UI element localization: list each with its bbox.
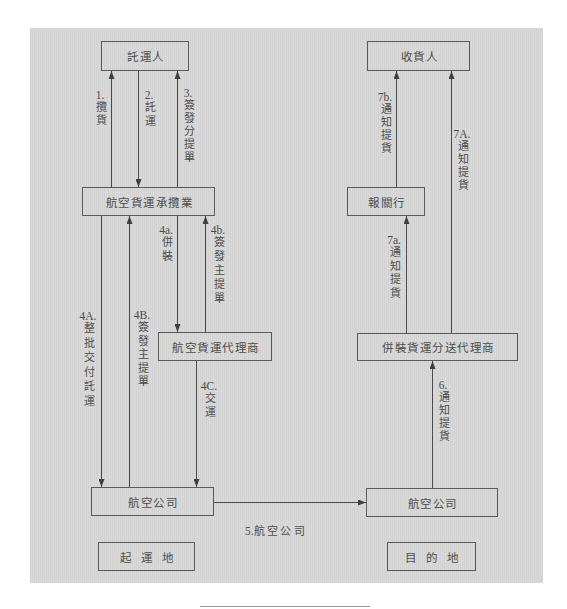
step-number: 7b. bbox=[378, 91, 392, 103]
node-consolidation-agent: 併裝貨運分送代理商 bbox=[357, 333, 518, 361]
step-text: 航空公司 bbox=[254, 525, 307, 538]
node-freight-forwarder: 航空貨運承攬業 bbox=[82, 187, 215, 216]
step-number: 3. bbox=[184, 87, 193, 99]
step-text: 簽發分提單 bbox=[182, 99, 194, 164]
edge-label-4B: 4B. 簽發主提單 bbox=[134, 309, 150, 389]
step-number: 5. bbox=[245, 525, 254, 537]
node-airline-origin: 航空公司 bbox=[91, 487, 214, 516]
edge-label-1: 1. 攬貨 bbox=[94, 89, 106, 127]
node-consignee: 收貨人 bbox=[367, 41, 470, 71]
step-number: 4B. bbox=[134, 309, 150, 321]
step-text: 通知提貨 bbox=[388, 246, 400, 300]
step-text: 通知提貨 bbox=[456, 140, 468, 192]
region-destination: 目的地 bbox=[387, 542, 476, 571]
edge-label-4A: 4A. 整批交付託運 bbox=[80, 310, 97, 409]
step-text: 簽發主提單 bbox=[136, 321, 148, 389]
step-number: 4C. bbox=[201, 380, 217, 392]
step-text: 攬貨 bbox=[94, 101, 106, 127]
step-number: 7a. bbox=[387, 234, 401, 246]
step-text: 託運 bbox=[143, 101, 155, 129]
node-shipper: 託運人 bbox=[101, 41, 189, 71]
step-number: 2. bbox=[145, 89, 154, 101]
edge-label-4a: 4a. 併裝 bbox=[159, 224, 173, 264]
node-air-cargo-agent: 航空貨運代理商 bbox=[158, 332, 272, 361]
step-number: 4a. bbox=[159, 224, 173, 236]
step-text: 通知提貨 bbox=[437, 391, 449, 443]
node-airline-destination: 航空公司 bbox=[366, 488, 498, 517]
step-number: 4A. bbox=[80, 310, 97, 322]
edge-label-2: 2. 託運 bbox=[143, 89, 155, 129]
step-number: 1. bbox=[96, 89, 105, 101]
diagram-canvas: 託運人 收貨人 航空貨運承攬業 報關行 航空貨運代理商 併裝貨運分送代理商 航空… bbox=[0, 0, 567, 609]
node-customs-broker: 報關行 bbox=[347, 187, 425, 216]
region-origin: 起運地 bbox=[98, 542, 195, 571]
step-text: 簽發主提單 bbox=[212, 236, 224, 306]
step-number: 7A. bbox=[454, 128, 471, 140]
edge-label-6: 6. 通知提貨 bbox=[437, 379, 449, 443]
step-text: 交運 bbox=[203, 392, 215, 419]
step-number: 4b. bbox=[211, 224, 225, 236]
step-text: 整批交付託運 bbox=[82, 322, 94, 409]
edge-label-7A: 7A. 通知提貨 bbox=[454, 128, 471, 192]
edge-label-5: 5.航空公司 bbox=[245, 525, 307, 538]
step-text: 通知提貨 bbox=[379, 103, 391, 155]
step-number: 6. bbox=[439, 379, 448, 391]
step-text: 併裝 bbox=[160, 236, 172, 264]
edge-label-4C: 4C. 交運 bbox=[201, 380, 217, 419]
edge-label-7b: 7b. 通知提貨 bbox=[378, 91, 392, 155]
edge-label-4b: 4b. 簽發主提單 bbox=[211, 224, 225, 306]
edge-label-7a: 7a. 通知提貨 bbox=[387, 234, 401, 300]
edge-label-3: 3. 簽發分提單 bbox=[182, 87, 194, 164]
caption-rule bbox=[200, 606, 370, 607]
